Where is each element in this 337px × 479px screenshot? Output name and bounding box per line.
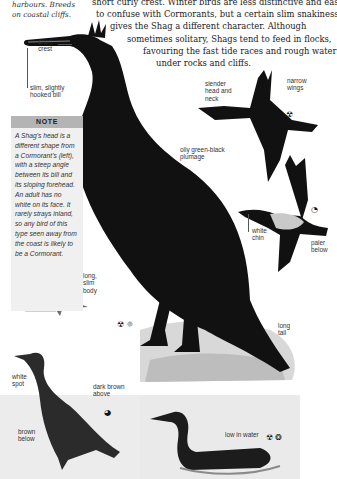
note-line: rarely strays inland, [15, 209, 79, 219]
label-dark-brown-above: dark brownabove [93, 383, 125, 398]
label-long-body: long,slimbody [83, 272, 97, 294]
note-line: different shape from [15, 141, 79, 151]
label-slender-head: slenderhead andneck [205, 80, 232, 102]
label-brown-below: brownbelow [18, 428, 35, 443]
note-box: NOTE A Shag's head is a different shape … [11, 116, 83, 311]
season-icons-main: ☢ ☼ [117, 320, 133, 329]
label-paler-below: palerbelow [311, 239, 328, 254]
season-icons-juvenile: ◕ [104, 408, 111, 417]
sun-icon: ☼ [126, 320, 133, 329]
season-icons-flight-top: ☢ [286, 110, 293, 119]
note-line: a Cormorant's (left), [15, 151, 79, 161]
label-bill: slim, slightlyhooked bill [30, 84, 64, 99]
label-white-spot: whitespot [12, 373, 27, 388]
note-line: white on its face. It [15, 200, 79, 210]
label-oily-plumage: oily green-blackplumage [180, 146, 225, 161]
label-short-crest: shortcrest [38, 38, 52, 53]
note-line: its sloping forehead. [15, 180, 79, 190]
note-line: the coast is likely to [15, 239, 79, 249]
note-line: with a steep angle [15, 160, 79, 170]
note-line: An adult has no [15, 190, 79, 200]
note-heading: NOTE [11, 116, 83, 128]
label-narrow-wings: narrowwings [287, 77, 307, 92]
note-line: A Shag's head is a [15, 131, 79, 141]
note-line: type seen away from [15, 229, 79, 239]
breeding-season-icon: ☢ [117, 320, 124, 329]
note-body: A Shag's head is a different shape from … [11, 128, 83, 261]
quarter-clock-icon: ◔ [311, 205, 318, 214]
label-low-in-water: low in water [225, 431, 259, 438]
season-icons-flight-mid: ◔ [311, 205, 318, 214]
season-icons-swimming: ☢ ❂ [266, 433, 282, 442]
note-line: between its bill and [15, 170, 79, 180]
label-white-chin: whitechin [252, 227, 267, 242]
label-long-tail: longtail [278, 322, 290, 337]
breeding-season-icon: ☢ [286, 110, 293, 119]
breeding-season-icon: ☢ [266, 433, 273, 442]
snowflake-icon: ❂ [275, 433, 282, 442]
three-quarter-clock-icon: ◕ [104, 408, 111, 417]
note-line: be a Cormorant. [15, 249, 79, 259]
note-line: so any bird of this [15, 219, 79, 229]
